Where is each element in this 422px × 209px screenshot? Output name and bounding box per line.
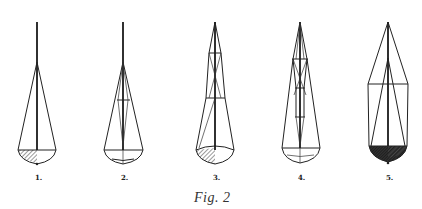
shroud-1-left (18, 62, 37, 150)
rig-4-label: 4. (298, 173, 305, 182)
rig-2-label: 2. (121, 173, 128, 182)
hull-2 (104, 150, 143, 164)
rig-1-diagram: 1. (18, 22, 56, 182)
figure-caption: Fig. 2 (193, 190, 230, 205)
rig-1-label: 1. (35, 173, 42, 182)
rig-3-diagram: 3. (196, 22, 234, 182)
rig-5-label: 5. (386, 173, 393, 182)
rig-3-label: 3. (213, 173, 220, 182)
rig-4-diagram: 4. (282, 22, 320, 182)
rig-5-diagram: 5. (368, 22, 408, 182)
rig-2-diagram: 2. (104, 22, 143, 182)
figure-2-rig-diagrams: 1. 2. 3. (0, 0, 422, 209)
shroud-1-right (37, 62, 56, 150)
